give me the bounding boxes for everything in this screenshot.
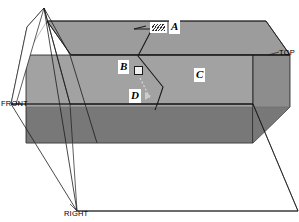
- view-label-front: FRONT: [1, 99, 28, 108]
- callout-label-a: A: [169, 20, 180, 34]
- view-label-top: TOP: [279, 48, 295, 57]
- callout-label-b: B: [118, 60, 129, 74]
- callout-d-arrow-swatch-icon: [145, 92, 151, 100]
- callout-a-hatch-swatch-icon: [151, 23, 166, 32]
- view-label-right: RIGHT: [64, 209, 88, 218]
- callout-label-c: C: [194, 68, 205, 82]
- callout-b-open-square-swatch-icon: [134, 66, 143, 75]
- projection-diagram-canvas: A B C D TOP FRONT RIGHT: [0, 0, 299, 222]
- callout-label-d: D: [129, 89, 141, 103]
- diagram-vector-layer: [0, 0, 299, 222]
